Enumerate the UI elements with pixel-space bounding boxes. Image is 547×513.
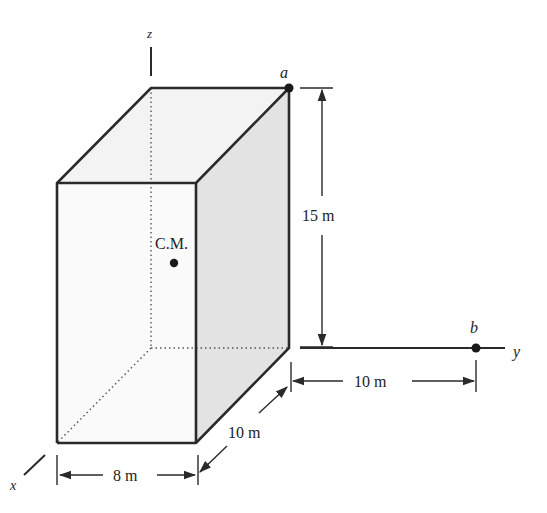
point-b-label: b	[470, 319, 478, 336]
x-axis-label: x	[9, 478, 17, 493]
front-face	[57, 183, 196, 443]
y-axis-label: y	[511, 343, 521, 361]
z-axis-label: z	[146, 26, 152, 41]
point-b-marker	[472, 344, 481, 353]
point-a-label: a	[280, 64, 288, 81]
x-axis	[24, 455, 45, 475]
b-offset-dimension-label: 10 m	[354, 373, 387, 390]
width-dimension-label: 8 m	[113, 467, 138, 484]
height-dimension-label: 15 m	[302, 207, 335, 224]
block-diagram: z x y a b C.M. 15 m 10 m 10 m 8 m	[0, 0, 547, 513]
depth-dimension-label: 10 m	[228, 424, 261, 441]
point-a-marker	[285, 84, 294, 93]
cm-label: C.M.	[155, 235, 188, 252]
cm-marker	[170, 259, 178, 267]
